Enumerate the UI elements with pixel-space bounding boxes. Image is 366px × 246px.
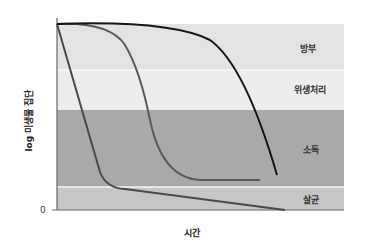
band-label-sanitization: 위생처리 (294, 83, 326, 96)
band-disinfection (57, 110, 344, 187)
x-axis-label: 시간 (184, 226, 200, 239)
band-label-antisepsis: 방부 (300, 42, 316, 55)
y-tick-zero: 0 (40, 205, 46, 215)
chart-canvas (0, 0, 366, 246)
y-axis-label: log 미생물 집단 (22, 66, 35, 176)
band-label-disinfection: 소독 (303, 143, 319, 156)
band-label-sterilization: 살균 (303, 193, 319, 206)
